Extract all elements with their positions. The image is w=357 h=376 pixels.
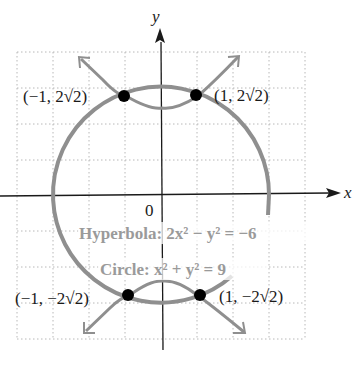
point-marker	[190, 89, 202, 101]
point-marker	[118, 90, 130, 102]
y-axis-label: y	[150, 7, 160, 26]
circle-equation: Circle: x² + y² = 9	[100, 260, 226, 279]
x-axis-label: x	[343, 183, 352, 202]
point-label: (−1, −2√2)	[15, 289, 89, 308]
point-label: (1, −2√2)	[219, 287, 283, 306]
hyperbola-equation: Hyperbola: 2x² − y² = −6	[79, 224, 257, 243]
point-marker	[122, 289, 134, 301]
graph: (−1, 2√2) (1, 2√2) (−1, −2√2) (1, −2√2) …	[0, 0, 357, 376]
x-axis	[0, 193, 330, 196]
point-label: (−1, 2√2)	[23, 87, 87, 106]
origin-label: 0	[145, 201, 154, 220]
y-axis-arrow-icon	[155, 28, 165, 43]
point-label: (1, 2√2)	[214, 86, 269, 105]
point-marker	[194, 289, 206, 301]
